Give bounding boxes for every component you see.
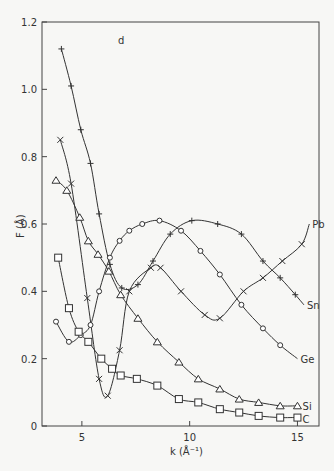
data-point-pb	[241, 288, 247, 294]
series-line-sn	[61, 49, 304, 305]
line-chart: 5101500.20.40.60.81.01.2 PbSnGeSiC d k (…	[0, 0, 334, 471]
data-point-si	[94, 251, 102, 257]
y-tick-label: 1.2	[21, 17, 37, 28]
data-point-sn	[150, 258, 156, 264]
data-point-pb	[279, 258, 285, 264]
data-point-sn	[68, 83, 74, 89]
square-marker	[75, 328, 82, 335]
square-marker	[109, 365, 116, 372]
triangle-marker	[76, 214, 84, 221]
y-tick-label: 1.0	[21, 84, 37, 95]
data-point-ge	[88, 323, 93, 328]
data-point-si	[52, 177, 60, 184]
triangle-marker	[134, 315, 142, 322]
data-point-pb	[158, 265, 164, 271]
circle-marker	[127, 228, 132, 233]
circle-marker	[88, 323, 93, 328]
triangle-marker	[216, 385, 224, 392]
x-axis-label: k (Å⁻¹)	[170, 445, 203, 457]
data-point-sn	[58, 46, 64, 52]
data-point-c	[55, 254, 62, 261]
data-point-pb	[105, 393, 111, 399]
data-point-ge	[239, 302, 244, 307]
data-point-pb	[57, 137, 63, 143]
data-point-pb	[260, 275, 266, 281]
x-tick-label: 10	[183, 432, 196, 443]
chart-container: 5101500.20.40.60.81.01.2 PbSnGeSiC d k (…	[0, 0, 334, 471]
data-point-si	[117, 291, 125, 298]
data-point-sn	[96, 211, 102, 217]
square-marker	[294, 414, 301, 421]
square-marker	[175, 396, 182, 403]
data-point-ge	[117, 238, 122, 243]
circle-marker	[179, 228, 184, 233]
data-point-si	[216, 385, 224, 392]
data-point-sn	[88, 160, 94, 166]
circle-marker	[278, 343, 283, 348]
data-point-ge	[107, 255, 112, 260]
data-point-c	[195, 399, 202, 406]
data-point-si	[134, 315, 142, 322]
series-label-si: Si	[303, 401, 312, 412]
data-point-si	[63, 187, 71, 194]
square-marker	[236, 409, 243, 416]
data-point-pb	[299, 241, 305, 247]
data-point-pb	[178, 288, 184, 294]
triangle-marker	[52, 177, 60, 184]
data-point-ge	[217, 272, 222, 277]
data-point-ge	[97, 289, 102, 294]
data-point-si	[84, 237, 92, 244]
circle-marker	[217, 272, 222, 277]
y-tick-label: 0.4	[21, 286, 37, 297]
x-tick-label: 5	[79, 432, 85, 443]
data-point-ge	[198, 248, 203, 253]
data-point-ge	[278, 343, 283, 348]
data-point-c	[236, 409, 243, 416]
data-point-c	[255, 412, 262, 419]
square-marker	[154, 382, 161, 389]
circle-marker	[198, 248, 203, 253]
data-point-sn	[78, 127, 84, 133]
circle-marker	[140, 222, 145, 227]
x-tick-label: 15	[291, 432, 304, 443]
circle-marker	[54, 319, 59, 324]
data-point-c	[294, 414, 301, 421]
data-point-si	[76, 214, 84, 221]
series-label-pb: Pb	[312, 219, 324, 230]
series-label-sn: Sn	[307, 300, 320, 311]
data-point-pb	[202, 312, 208, 318]
data-point-c	[175, 396, 182, 403]
data-point-ge	[157, 218, 162, 223]
data-point-c	[154, 382, 161, 389]
data-point-c	[133, 375, 140, 382]
square-marker	[55, 254, 62, 261]
triangle-marker	[84, 237, 92, 244]
data-point-c	[216, 406, 223, 413]
data-point-ge	[140, 222, 145, 227]
circle-marker	[66, 339, 71, 344]
series-line-si	[56, 180, 300, 406]
data-point-c	[277, 414, 284, 421]
square-marker	[255, 412, 262, 419]
triangle-marker	[94, 251, 102, 257]
data-point-ge	[260, 326, 265, 331]
data-point-c	[65, 305, 72, 312]
data-point-ge	[179, 228, 184, 233]
circle-marker	[260, 326, 265, 331]
square-marker	[195, 399, 202, 406]
y-axis-label: F (Å)	[14, 214, 26, 238]
circle-marker	[157, 218, 162, 223]
data-point-sn	[189, 218, 195, 224]
square-marker	[117, 372, 124, 379]
square-marker	[85, 338, 92, 345]
y-tick-label: 0.8	[21, 152, 37, 163]
data-point-pb	[217, 315, 223, 321]
data-point-si	[235, 396, 243, 403]
data-point-c	[98, 355, 105, 362]
circle-marker	[107, 255, 112, 260]
data-point-c	[117, 372, 124, 379]
series-label-ge: Ge	[300, 354, 314, 365]
data-point-c	[85, 338, 92, 345]
data-point-c	[75, 328, 82, 335]
data-point-sn	[215, 221, 221, 227]
